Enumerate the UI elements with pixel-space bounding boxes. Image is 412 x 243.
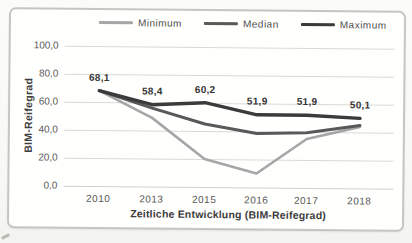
y-tick-label: 60,0: [10, 95, 58, 106]
y-tick-label: 20,0: [10, 151, 58, 162]
data-label: 50,1: [338, 99, 382, 110]
data-label: 51,9: [235, 96, 279, 107]
x-tick-label: 2010: [73, 193, 123, 204]
gridline-layer: [11, 9, 404, 13]
legend-item-minimum: Minimum: [99, 17, 182, 29]
data-label: 51,9: [285, 96, 329, 107]
data-label-layer: 68,158,460,251,951,950,1: [11, 9, 404, 13]
y-tick-label: 80,0: [10, 67, 58, 78]
legend-label: Maximum: [340, 19, 387, 30]
legend-line-swatch-icon: [301, 23, 335, 26]
legend-line-swatch-icon: [99, 21, 133, 24]
legend-item-maximum: Maximum: [301, 19, 387, 31]
x-tick-label: 2018: [334, 195, 384, 206]
data-label: 68,1: [77, 71, 121, 82]
x-tick-label: 2017: [281, 195, 331, 206]
legend-line-swatch-icon: [204, 22, 238, 25]
y-tick-label: 0,0: [9, 179, 57, 190]
chart-legend: MinimumMedianMaximum: [99, 17, 387, 31]
scan-artifact: [1, 233, 10, 240]
x-axis-title: Zeitliche Entwicklung (BIM-Reifegrad): [63, 207, 393, 222]
y-tick-label: 40,0: [10, 123, 58, 134]
legend-label: Median: [243, 18, 279, 29]
data-label: 58,4: [130, 86, 174, 97]
y-tick-label: 100,0: [11, 39, 59, 50]
x-tick-label: 2015: [179, 194, 229, 205]
x-axis-tick-labels: 201020132015201620172018: [11, 9, 404, 13]
x-tick-label: 2016: [231, 194, 281, 205]
data-label: 60,2: [183, 83, 227, 94]
chart-frame: MinimumMedianMaximum BIM-Reifegrad 100,0…: [7, 7, 406, 232]
plot-area: [63, 46, 394, 189]
legend-label: Minimum: [138, 17, 182, 28]
x-tick-label: 2013: [126, 193, 176, 204]
y-axis-tick-labels: 100,080,060,040,020,00,0: [11, 9, 404, 13]
legend-item-median: Median: [204, 18, 279, 30]
